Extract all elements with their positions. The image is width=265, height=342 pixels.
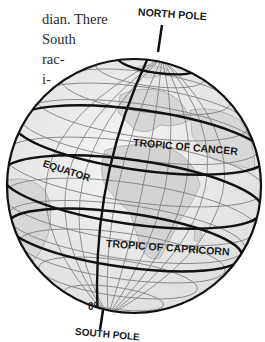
north-pole-pointer xyxy=(158,25,162,52)
globe-diagram: NORTH POLE TROPIC OF CANCER EQUATOR TROP… xyxy=(0,0,265,342)
south-pole-label: SOUTH POLE xyxy=(75,326,141,342)
north-pole-label: NORTH POLE xyxy=(138,5,208,22)
south-pole-pointer xyxy=(100,310,103,330)
prime-meridian-degree-label: 0° xyxy=(88,301,98,312)
